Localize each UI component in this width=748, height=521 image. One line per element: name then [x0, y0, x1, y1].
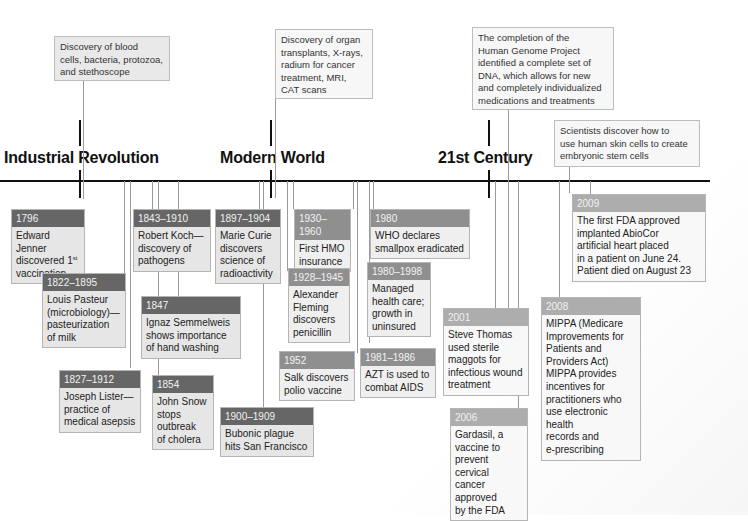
note-line: Discovery of organ [281, 34, 367, 47]
event-text: maggots for [448, 354, 524, 367]
era-label-industrial-revolution: Industrial Revolution [4, 149, 159, 167]
event-card-joseph-lister: 1827–1912 Joseph Lister— practice of med… [59, 370, 141, 433]
event-text: (microbiology)— [47, 307, 121, 320]
note-line: radium for cancer [281, 59, 367, 72]
event-text: Managed [372, 283, 426, 296]
event-text: MIPPA provides [546, 368, 636, 381]
event-date: 1897–1904 [216, 210, 280, 227]
event-card-robert-koch: 1843–1910 Robert Koch— discovery of path… [133, 209, 211, 272]
event-text: incentives for [546, 381, 636, 394]
event-date: 2001 [444, 309, 528, 326]
note-line: use human skin cells to create [560, 138, 694, 151]
event-text: prevent cervical [455, 454, 523, 479]
event-text: practice of [64, 404, 136, 417]
event-text: pasteurization [47, 319, 121, 332]
event-text: WHO declares [375, 230, 465, 243]
event-text: Louis Pasteur [47, 294, 121, 307]
event-date: 1854 [153, 376, 213, 393]
connector-line [373, 181, 374, 209]
note-line: medications and treatments [478, 95, 608, 108]
note-line: CAT scans [281, 84, 367, 97]
event-text: hits San Francisco [225, 441, 309, 454]
event-date: 1847 [142, 297, 240, 314]
event-text: Steve Thomas [448, 329, 524, 342]
connector-line [152, 181, 153, 209]
connector-line [275, 98, 276, 198]
event-card-john-snow: 1854 John Snow stops outbreak of cholera [152, 375, 214, 450]
event-text: used sterile [448, 342, 524, 355]
note-blood-cells-bacteria: Discovery of blood cells, bacteria, prot… [54, 36, 170, 81]
event-text: in a patient on June 24. [577, 253, 701, 266]
event-text: polio vaccine [284, 385, 350, 398]
event-text: Alexander [293, 289, 345, 302]
event-text: pathogens [138, 255, 206, 268]
event-text: Improvements for [546, 331, 636, 344]
era-tick-industrial-lower [79, 170, 81, 198]
event-text: John Snow [157, 396, 209, 409]
event-text: AZT is used to [365, 369, 431, 382]
connector-line [130, 181, 131, 368]
event-text: Bubonic plague [225, 428, 309, 441]
note-line: cells, bacteria, protozoa, [60, 54, 164, 67]
event-text: discovers [293, 314, 345, 327]
event-date: 1822–1895 [43, 274, 125, 291]
connector-line [287, 181, 288, 271]
event-text: Patients and [546, 343, 636, 356]
connector-line [569, 167, 570, 193]
event-text: implanted AbioCor [577, 228, 701, 241]
event-card-gardasil: 2006 Gardasil, a vaccine to prevent cerv… [450, 408, 528, 521]
event-text: Providers Act) [546, 356, 636, 369]
connector-line [259, 181, 260, 209]
event-text: First HMO [299, 243, 346, 256]
event-text: The first FDA approved [577, 215, 701, 228]
note-line: treatment, MRI, [281, 72, 367, 85]
era-tick-modern [270, 120, 272, 146]
era-tick-industrial [79, 120, 81, 146]
event-card-louis-pasteur: 1822–1895 Louis Pasteur (microbiology)— … [42, 273, 126, 348]
event-card-mippa: 2008 MIPPA (Medicare Improvements for Pa… [541, 297, 641, 461]
event-text: science of [220, 255, 276, 268]
era-label-modern-world: Modern World [220, 149, 325, 167]
event-date: 1952 [280, 352, 354, 369]
event-text: smallpox eradicated [375, 243, 465, 256]
note-line: DNA, which allows for new [478, 70, 608, 83]
event-text: discovery of [138, 243, 206, 256]
connector-line [590, 181, 591, 195]
event-text: insurance [299, 256, 346, 269]
event-text: vaccine to [455, 442, 523, 455]
event-card-marie-curie: 1897–1904 Marie Curie discovers science … [215, 209, 281, 284]
event-date: 1827–1912 [60, 371, 140, 388]
era-tick-21st [488, 120, 490, 146]
event-text: shows importance [146, 330, 236, 343]
note-line: transplants, X-rays, [281, 47, 367, 60]
event-card-bubonic-plague: 1900–1909 Bubonic plague hits San Franci… [220, 407, 314, 457]
era-label-21st-century: 21st Century [438, 149, 533, 167]
note-line: embryonic stem cells [560, 150, 694, 163]
note-line: and completely individualized [478, 82, 608, 95]
event-text: practitioners who [546, 394, 636, 407]
note-line: The completion of the [478, 32, 608, 45]
timeline-axis [0, 180, 710, 182]
era-tick-modern-lower [270, 170, 272, 198]
connector-line [495, 181, 496, 311]
event-text: MIPPA (Medicare [546, 318, 636, 331]
event-text: health care; [372, 296, 426, 309]
event-text: of hand washing [146, 342, 236, 355]
event-text: combat AIDS [365, 382, 431, 395]
event-date: 2008 [542, 298, 640, 315]
event-text: Gardasil, a [455, 429, 523, 442]
note-line: identified a complete set of [478, 57, 608, 70]
connector-line [559, 181, 560, 301]
event-date: 1980 [371, 210, 469, 227]
event-text: Patient died on August 23 [577, 265, 701, 278]
event-date: 1843–1910 [134, 210, 210, 227]
event-text: discovered 1st [16, 255, 80, 268]
event-card-alexander-fleming: 1928–1945 Alexander Fleming discovers pe… [288, 268, 350, 343]
event-text: Joseph Lister— [64, 391, 136, 404]
event-text: of cholera [157, 434, 209, 447]
note-line: Human Genome Project [478, 45, 608, 58]
event-text: discovers [220, 243, 276, 256]
event-text: Salk discovers [284, 372, 350, 385]
connector-line [508, 109, 509, 319]
event-text: use electronic health [546, 406, 636, 431]
